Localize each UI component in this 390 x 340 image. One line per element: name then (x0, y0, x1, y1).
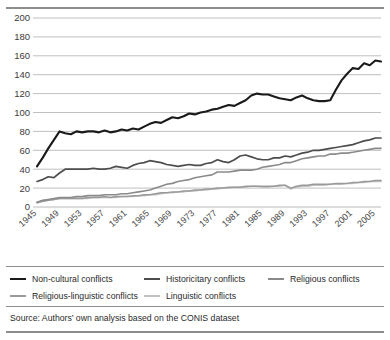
y-axis-tick-label: 200 (14, 12, 30, 23)
y-axis-tick-label: 80 (19, 126, 30, 137)
y-axis-tick-label: 40 (19, 164, 30, 175)
chart-figure: 0204060801001201401601802001945194919531… (0, 0, 390, 340)
legend-row-2: Religious-linguistic conflicts Linguisti… (10, 287, 382, 304)
line-chart-svg: 0204060801001201401601802001945194919531… (0, 10, 390, 240)
x-axis-tick-label: 1989 (265, 208, 287, 229)
legend-swatch-icon (144, 278, 160, 280)
x-axis-tick-label: 1997 (310, 208, 332, 229)
legend-item-religious-conflicts[interactable]: Religious conflicts (268, 274, 378, 284)
y-axis-tick-label: 120 (14, 88, 30, 99)
x-axis-tick-label: 1949 (39, 208, 61, 229)
y-axis-tick-label: 140 (14, 69, 30, 80)
legend-row-1: Non-cultural conflicts Historicitary con… (10, 270, 382, 287)
y-axis-tick-label: 20 (19, 183, 30, 194)
x-axis-tick-group: 1989 (265, 208, 287, 229)
legend-label: Religious-linguistic conflicts (32, 291, 138, 301)
legend-bottom-divider (6, 306, 384, 307)
legend-item-non-cultural-conflicts[interactable]: Non-cultural conflicts (10, 274, 144, 284)
x-axis-tick-label: 1969 (152, 208, 174, 229)
x-axis-tick-group: 1993 (287, 208, 309, 229)
x-axis-tick-group: 1945 (17, 208, 39, 229)
legend-top-divider (6, 266, 384, 267)
x-axis-tick-group: 1953 (62, 208, 84, 229)
x-axis-tick-label: 1981 (220, 208, 242, 229)
x-axis-tick-label: 1961 (107, 208, 129, 229)
legend-item-linguistic-conflicts[interactable]: Linguistic conflicts (144, 291, 268, 301)
plot-area: 0204060801001201401601802001945194919531… (0, 10, 390, 240)
top-divider (6, 7, 384, 9)
y-axis-tick-label: 160 (14, 50, 30, 61)
x-axis-tick-group: 1957 (84, 208, 106, 229)
series-line (37, 148, 381, 202)
x-axis-tick-group: 1985 (242, 208, 264, 229)
chart-legend: Non-cultural conflicts Historicitary con… (10, 270, 382, 304)
x-axis-tick-label: 1993 (287, 208, 309, 229)
x-axis-tick-label: 1957 (84, 208, 106, 229)
y-axis-tick-label: 60 (19, 145, 30, 156)
source-note: Source: Authors’ own analysis based on t… (10, 313, 239, 323)
x-axis-tick-group: 1965 (130, 208, 152, 229)
x-axis-tick-group: 1973 (175, 208, 197, 229)
legend-swatch-icon (10, 278, 26, 280)
bottom-divider (6, 331, 384, 333)
legend-label: Non-cultural conflicts (32, 274, 113, 284)
legend-swatch-icon (10, 295, 26, 297)
x-axis-tick-label: 2001 (333, 208, 355, 229)
x-axis-tick-group: 1961 (107, 208, 129, 229)
legend-label: Religious conflicts (290, 274, 360, 284)
x-axis-tick-label: 1973 (175, 208, 197, 229)
legend-label: Historicitary conflicts (166, 274, 245, 284)
legend-swatch-icon (268, 278, 284, 280)
x-axis-tick-group: 1969 (152, 208, 174, 229)
x-axis-tick-label: 1977 (197, 208, 219, 229)
legend-swatch-icon (144, 295, 160, 297)
x-axis-tick-group: 1997 (310, 208, 332, 229)
x-axis-tick-group: 1949 (39, 208, 61, 229)
y-axis-tick-label: 180 (14, 31, 30, 42)
x-axis-tick-group: 1981 (220, 208, 242, 229)
x-axis-tick-label: 1965 (130, 208, 152, 229)
x-axis-tick-label: 1945 (17, 208, 39, 229)
x-axis-tick-group: 1977 (197, 208, 219, 229)
x-axis-tick-label: 1985 (242, 208, 264, 229)
y-axis-tick-label: 100 (14, 107, 30, 118)
legend-item-religious-linguistic-conflicts[interactable]: Religious-linguistic conflicts (10, 291, 144, 301)
x-axis-tick-group: 2005 (355, 208, 377, 229)
x-axis-tick-label: 2005 (355, 208, 377, 229)
legend-item-historicitary-conflicts[interactable]: Historicitary conflicts (144, 274, 268, 284)
legend-label: Linguistic conflicts (166, 291, 236, 301)
x-axis-tick-group: 2001 (333, 208, 355, 229)
x-axis-tick-label: 1953 (62, 208, 84, 229)
